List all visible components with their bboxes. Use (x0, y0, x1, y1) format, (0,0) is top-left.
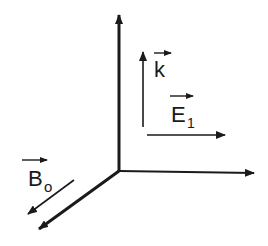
svg-text:B: B (28, 166, 43, 191)
field-diagram: k E 1 B o (0, 0, 268, 246)
svg-text:o: o (44, 178, 52, 195)
b0-label: B o (22, 160, 52, 195)
e1-label: E 1 (170, 96, 195, 131)
k-label: k (154, 53, 171, 82)
svg-text:E: E (171, 102, 186, 127)
svg-text:1: 1 (187, 115, 195, 131)
horizontal-axis (119, 171, 254, 173)
svg-text:k: k (154, 57, 166, 82)
